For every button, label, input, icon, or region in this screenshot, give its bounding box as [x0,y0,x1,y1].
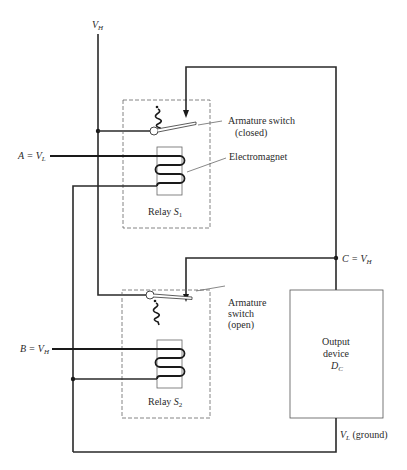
relay-circuit-diagram: VH Relay S1 A = VL Armature switch (clos… [0,0,407,470]
ground-wire [73,418,336,452]
vh-bus-wire [98,34,148,295]
spring-icon [153,300,159,325]
electromagnet-label: Electromagnet [229,151,288,162]
output-c-label: C = VH [342,253,373,266]
electromagnet-leader [187,158,226,172]
ground-label: VL (ground) [340,429,388,442]
output-device-label-2: device [323,348,350,359]
s1-pivot [150,127,158,135]
output-device-label-1: Output [322,336,350,347]
s1-contact-wire [186,67,336,290]
relay-s1-label: Relay S1 [148,206,183,219]
relay-s2: Relay S2 [52,290,210,418]
s1-contact-arrow-icon [183,110,189,118]
s1-armature [157,122,196,132]
s2-switch-label-1: Armature [228,297,267,308]
s2-coil-core [157,340,182,388]
s2-switch-leader [196,286,225,291]
s1-switch-state-label: (closed) [235,127,267,139]
ground-junction-dot [71,377,75,381]
relay-s2-label: Relay S2 [148,396,183,409]
s1-coil-return-wire [73,186,157,452]
s1-switch-label: Armature switch [228,115,295,126]
s2-pivot [146,291,154,299]
s2-switch-label-2: switch [228,308,254,319]
input-b-label: B = VH [20,343,50,356]
vh-top-label: VH [92,19,104,32]
input-a-label: A = VL [17,150,46,163]
s2-switch-state-label: (open) [228,319,254,331]
s1-coil-core [157,147,182,195]
